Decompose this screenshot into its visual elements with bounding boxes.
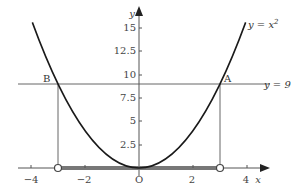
y-tick-label: 7.5 <box>120 92 136 103</box>
open-endpoint-a-icon <box>217 165 224 172</box>
x-tick-label: 4 <box>243 174 249 185</box>
x-tick-label: 2 <box>189 174 195 185</box>
x-axis-label: x <box>255 174 261 185</box>
y-tick-label: 5 <box>130 115 136 126</box>
y-axis-label: y <box>128 8 135 19</box>
parabola-diagram: −4 −2 2 4 O x 2.5 5 7.5 10 12.5 15 y B A… <box>0 0 302 192</box>
point-a-label: A <box>223 73 232 84</box>
y-tick-label: 2.5 <box>120 139 136 150</box>
curve-label: y = x2 <box>247 18 279 30</box>
y-tick-label: 12.5 <box>114 45 136 56</box>
x-axis-arrow-icon <box>260 164 270 172</box>
y-tick-label: 10 <box>123 69 136 80</box>
y-axis-arrow-icon <box>135 6 143 16</box>
x-tick-label: −4 <box>24 174 39 185</box>
line-label: y = 9 <box>263 79 291 90</box>
x-tick-label: −2 <box>77 174 92 185</box>
origin-label: O <box>135 174 143 185</box>
point-b-label: B <box>43 73 50 84</box>
open-endpoint-b-icon <box>55 165 62 172</box>
y-tick-label: 15 <box>123 22 136 33</box>
